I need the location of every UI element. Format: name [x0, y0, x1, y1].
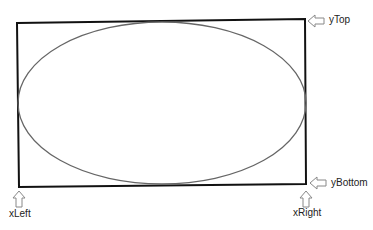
- xright-label: xRight: [293, 207, 321, 218]
- ybottom-arrow-icon: [310, 177, 326, 189]
- ybottom-label: yBottom: [331, 177, 368, 188]
- ellipse: [18, 22, 306, 184]
- xleft-arrow-icon: [13, 191, 25, 207]
- ytop-label: yTop: [329, 14, 350, 25]
- xright-arrow-icon: [300, 191, 312, 207]
- diagram-canvas: [0, 0, 373, 230]
- xleft-label: xLeft: [9, 208, 31, 219]
- ytop-arrow-icon: [308, 15, 324, 27]
- bounding-rectangle: [17, 19, 306, 187]
